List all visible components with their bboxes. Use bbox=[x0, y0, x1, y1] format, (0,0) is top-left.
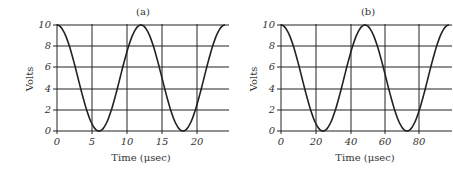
chart-a-curve bbox=[57, 25, 225, 131]
svg-text:0: 0 bbox=[45, 125, 52, 136]
svg-text:8: 8 bbox=[269, 40, 275, 51]
figure: (a) 0 2 bbox=[0, 0, 453, 178]
chart-b: (b) 0 2 4 6 8 bbox=[248, 6, 452, 163]
chart-a-ylabel: Volts bbox=[24, 67, 35, 93]
svg-text:4: 4 bbox=[268, 83, 275, 94]
svg-text:10: 10 bbox=[262, 19, 275, 30]
chart-b-title: (b) bbox=[361, 6, 375, 17]
svg-text:5: 5 bbox=[89, 136, 95, 147]
chart-b-ytick-labels: 0 2 4 6 8 10 bbox=[262, 19, 275, 136]
chart-a-title: (a) bbox=[136, 6, 150, 17]
chart-b-ytick-marks bbox=[277, 25, 281, 131]
svg-text:10: 10 bbox=[121, 136, 134, 147]
chart-a-ytick-marks bbox=[53, 25, 57, 131]
svg-text:0: 0 bbox=[278, 136, 285, 147]
chart-a: (a) 0 2 bbox=[24, 6, 229, 163]
svg-text:20: 20 bbox=[309, 136, 323, 147]
svg-text:6: 6 bbox=[269, 61, 276, 72]
chart-b-hgrid bbox=[281, 25, 452, 131]
svg-text:60: 60 bbox=[379, 136, 392, 147]
svg-text:20: 20 bbox=[190, 136, 204, 147]
chart-a-ytick-labels: 0 2 4 6 8 10 bbox=[38, 19, 51, 136]
chart-b-xlabel: Time (μsec) bbox=[335, 152, 394, 163]
chart-a-xtick-labels: 0 5 10 15 20 bbox=[54, 136, 204, 147]
svg-text:15: 15 bbox=[156, 136, 169, 147]
chart-b-xtick-labels: 0 20 40 60 80 bbox=[278, 136, 426, 147]
chart-b-ylabel: Volts bbox=[248, 67, 259, 93]
svg-text:10: 10 bbox=[38, 19, 51, 30]
svg-text:2: 2 bbox=[44, 104, 51, 115]
chart-a-xlabel: Time (μsec) bbox=[111, 152, 170, 163]
svg-text:8: 8 bbox=[45, 40, 51, 51]
svg-text:0: 0 bbox=[54, 136, 61, 147]
svg-text:0: 0 bbox=[269, 125, 276, 136]
chart-b-curve bbox=[281, 25, 449, 131]
svg-text:4: 4 bbox=[44, 83, 51, 94]
svg-text:40: 40 bbox=[344, 136, 358, 147]
svg-text:80: 80 bbox=[413, 136, 426, 147]
svg-text:2: 2 bbox=[268, 104, 275, 115]
svg-text:6: 6 bbox=[45, 61, 52, 72]
